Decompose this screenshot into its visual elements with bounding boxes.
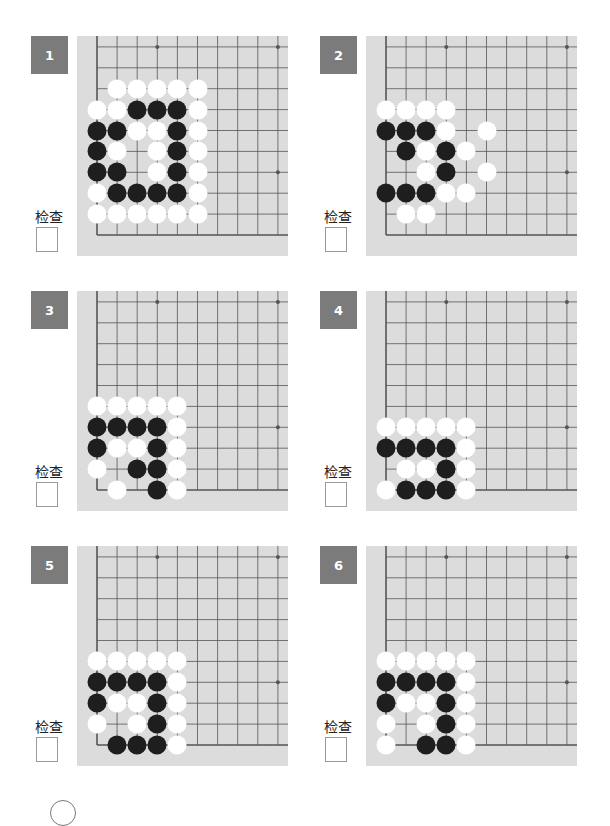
black-stone: [397, 481, 416, 500]
black-stone: [417, 439, 436, 458]
problem-4: 4 检查: [309, 275, 589, 510]
go-board[interactable]: [366, 291, 577, 511]
white-stone: [417, 715, 436, 734]
white-stone: [168, 79, 187, 98]
black-stone: [108, 418, 127, 437]
white-stone: [457, 418, 476, 437]
white-stone: [377, 736, 396, 755]
go-board[interactable]: [77, 546, 288, 766]
white-stone: [457, 694, 476, 713]
black-stone: [417, 481, 436, 500]
white-stone: [168, 205, 187, 224]
white-stone: [168, 481, 187, 500]
white-stone: [168, 673, 187, 692]
white-stone: [457, 652, 476, 671]
white-stone: [148, 142, 167, 161]
white-stone: [457, 736, 476, 755]
black-stone: [148, 673, 167, 692]
white-stone: [168, 652, 187, 671]
black-stone: [417, 184, 436, 203]
white-stone: [457, 439, 476, 458]
white-stone: [168, 715, 187, 734]
white-stone: [457, 715, 476, 734]
check-label: 检查: [324, 461, 352, 481]
black-stone: [148, 694, 167, 713]
black-stone: [168, 163, 187, 182]
check-box[interactable]: [36, 482, 58, 507]
problem-5: 5 检查: [20, 530, 300, 765]
board-grid: [366, 291, 577, 511]
white-stone: [377, 481, 396, 500]
white-stone: [88, 100, 107, 119]
white-stone: [128, 79, 147, 98]
problem-number-badge: 2: [320, 36, 357, 74]
white-stone: [148, 163, 167, 182]
go-board[interactable]: [366, 36, 577, 256]
black-stone: [128, 736, 147, 755]
white-stone: [397, 694, 416, 713]
white-stone: [377, 652, 396, 671]
white-stone: [417, 163, 436, 182]
white-stone: [417, 694, 436, 713]
white-stone: [108, 652, 127, 671]
check-box[interactable]: [325, 482, 347, 507]
black-stone: [168, 142, 187, 161]
go-board[interactable]: [77, 291, 288, 511]
black-stone: [148, 100, 167, 119]
white-stone: [128, 121, 147, 140]
check-box[interactable]: [325, 737, 347, 762]
black-stone: [437, 439, 456, 458]
check-label: 检查: [324, 716, 352, 736]
white-stone: [128, 694, 147, 713]
black-stone: [168, 184, 187, 203]
black-stone: [128, 184, 147, 203]
black-stone: [148, 715, 167, 734]
black-stone: [88, 694, 107, 713]
white-stone: [128, 652, 147, 671]
white-stone: [88, 460, 107, 479]
black-stone: [437, 736, 456, 755]
black-stone: [148, 460, 167, 479]
black-stone: [377, 694, 396, 713]
white-stone: [377, 715, 396, 734]
black-stone: [437, 715, 456, 734]
white-stone: [108, 79, 127, 98]
black-stone: [88, 418, 107, 437]
white-stone: [417, 418, 436, 437]
white-stone: [377, 100, 396, 119]
black-stone: [437, 142, 456, 161]
white-stone: [457, 460, 476, 479]
page-circle-icon: [50, 800, 76, 826]
black-stone: [148, 736, 167, 755]
go-board[interactable]: [77, 36, 288, 256]
check-box[interactable]: [325, 227, 347, 252]
black-stone: [88, 142, 107, 161]
check-box[interactable]: [36, 737, 58, 762]
black-stone: [128, 418, 147, 437]
problem-number-badge: 1: [31, 36, 68, 74]
white-stone: [437, 184, 456, 203]
black-stone: [437, 694, 456, 713]
black-stone: [437, 163, 456, 182]
white-stone: [397, 652, 416, 671]
black-stone: [148, 184, 167, 203]
black-stone: [417, 121, 436, 140]
white-stone: [477, 163, 496, 182]
white-stone: [188, 163, 207, 182]
white-stone: [397, 100, 416, 119]
go-board[interactable]: [366, 546, 577, 766]
black-stone: [397, 121, 416, 140]
white-stone: [148, 79, 167, 98]
white-stone: [108, 481, 127, 500]
white-stone: [457, 673, 476, 692]
black-stone: [128, 100, 147, 119]
white-stone: [88, 184, 107, 203]
black-stone: [377, 184, 396, 203]
black-stone: [417, 673, 436, 692]
black-stone: [88, 121, 107, 140]
white-stone: [397, 460, 416, 479]
white-stone: [397, 418, 416, 437]
problem-number-badge: 5: [31, 546, 68, 584]
check-box[interactable]: [36, 227, 58, 252]
white-stone: [108, 694, 127, 713]
